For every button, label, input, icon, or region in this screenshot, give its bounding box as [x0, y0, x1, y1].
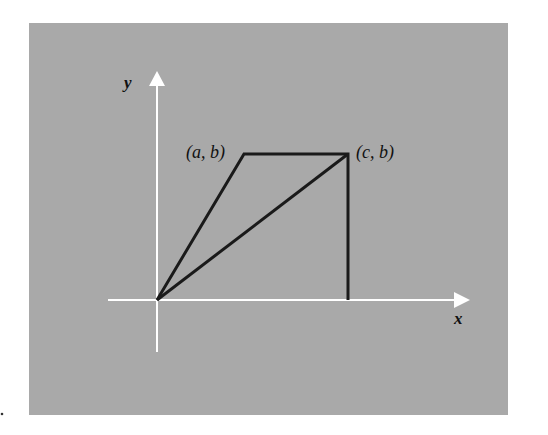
- panel-background: [29, 23, 508, 415]
- x-axis-label: x: [453, 309, 463, 328]
- y-axis-label: y: [122, 73, 132, 92]
- diagram: y x (a, b) (c, b): [0, 0, 548, 435]
- point-label-c-b: (c, b): [356, 142, 394, 163]
- point-label-a-b: (a, b): [186, 142, 225, 163]
- stray-dot: [1, 413, 4, 416]
